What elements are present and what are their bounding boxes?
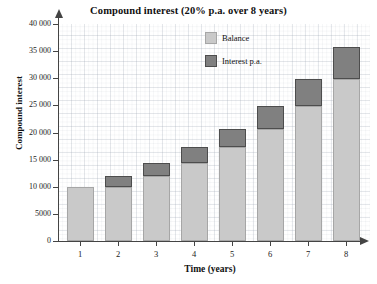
bar-segment-interest (333, 47, 360, 79)
bar-column (67, 187, 94, 241)
y-tick-label: 35 000 (29, 47, 51, 55)
y-tick-label: 30 000 (29, 74, 51, 82)
x-tick-label: 4 (179, 249, 209, 259)
bar-column (181, 147, 208, 241)
bar-segment-interest (105, 176, 132, 187)
x-tick-label: 6 (255, 249, 285, 259)
y-tick (53, 160, 58, 161)
y-tick (53, 51, 58, 52)
x-tick-label: 1 (65, 249, 95, 259)
bar-segment-balance (295, 106, 322, 241)
x-tick (194, 241, 195, 246)
bar-segment-balance (143, 176, 170, 241)
y-tick (53, 133, 58, 134)
y-tick (53, 105, 58, 106)
bar-column (333, 47, 360, 241)
bar-column (105, 176, 132, 241)
y-axis-label: Compound interest (14, 58, 24, 168)
x-tick (232, 241, 233, 246)
x-tick-label: 3 (141, 249, 171, 259)
bar-segment-balance (181, 163, 208, 241)
x-tick (270, 241, 271, 246)
x-tick (80, 241, 81, 246)
y-tick (53, 187, 58, 188)
x-tick (118, 241, 119, 246)
bar-segment-balance (105, 187, 132, 241)
y-tick (53, 24, 58, 25)
x-axis-line (58, 241, 362, 242)
x-tick (308, 241, 309, 246)
bar-segment-balance (333, 79, 360, 241)
x-tick-label: 5 (217, 249, 247, 259)
legend-item-interest: Interest p.a. (205, 55, 262, 67)
bar-segment-interest (219, 129, 246, 148)
legend-label-balance: Balance (222, 34, 249, 43)
x-axis-arrow-icon (360, 237, 369, 245)
y-axis-line (58, 16, 59, 242)
y-tick-label: 40 000 (29, 20, 51, 28)
x-axis-label: Time (years) (58, 264, 362, 274)
bar-segment-interest (181, 147, 208, 163)
bar-column (219, 129, 246, 241)
bar-segment-balance (257, 129, 284, 241)
x-tick (346, 241, 347, 246)
y-axis-arrow-icon (55, 9, 63, 18)
compound-interest-chart: Compound interest (20% p.a. over 8 years… (0, 0, 377, 284)
bar-column (257, 106, 284, 241)
x-tick-label: 2 (103, 249, 133, 259)
y-tick-label: 20 000 (29, 129, 51, 137)
y-tick-label: 10 000 (29, 183, 51, 191)
bar-segment-balance (67, 187, 94, 241)
legend-swatch-interest-icon (205, 55, 217, 67)
bar-segment-balance (219, 147, 246, 241)
y-tick-label: 0 (47, 237, 51, 245)
y-tick-label: 25 000 (29, 101, 51, 109)
bar-column (295, 79, 322, 241)
y-tick (53, 78, 58, 79)
legend-item-balance: Balance (205, 32, 262, 44)
bar-segment-interest (295, 79, 322, 106)
bar-column (143, 163, 170, 241)
chart-legend: Balance Interest p.a. (205, 32, 262, 78)
legend-swatch-balance-icon (205, 32, 217, 44)
x-tick-label: 7 (293, 249, 323, 259)
bar-segment-interest (257, 106, 284, 128)
legend-label-interest: Interest p.a. (222, 57, 262, 66)
x-tick-label: 8 (331, 249, 361, 259)
x-tick (156, 241, 157, 246)
y-tick-label: 5000 (35, 210, 51, 218)
y-tick (53, 214, 58, 215)
y-tick (53, 241, 58, 242)
y-tick-label: 15 000 (29, 156, 51, 164)
bar-segment-interest (143, 163, 170, 176)
